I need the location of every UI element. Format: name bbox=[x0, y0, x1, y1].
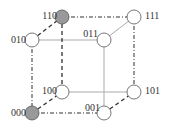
node-100 bbox=[55, 85, 69, 99]
node-111 bbox=[127, 10, 141, 24]
node-110 bbox=[55, 10, 69, 24]
node-label-111: 111 bbox=[145, 10, 159, 21]
node-101 bbox=[127, 85, 141, 99]
node-label-100: 100 bbox=[42, 85, 57, 96]
node-label-110: 110 bbox=[42, 10, 57, 21]
node-000 bbox=[25, 106, 39, 120]
node-label-001: 001 bbox=[85, 102, 100, 113]
node-011 bbox=[97, 33, 111, 47]
hypercube-diagram: 110111010011100101000001 bbox=[0, 0, 171, 125]
node-label-010: 010 bbox=[11, 34, 26, 45]
node-label-101: 101 bbox=[145, 85, 160, 96]
node-010 bbox=[25, 33, 39, 47]
node-label-011: 011 bbox=[83, 28, 98, 39]
node-label-000: 000 bbox=[11, 107, 26, 118]
